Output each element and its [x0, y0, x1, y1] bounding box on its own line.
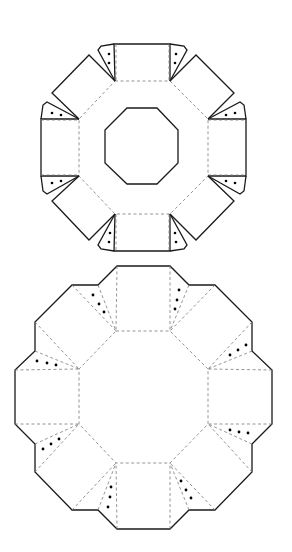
lid-tab-right-top: [208, 102, 246, 119]
lid-tab-left-top: [41, 102, 79, 119]
base-net: [15, 266, 272, 529]
lid-panel-left: [41, 102, 79, 194]
lid-panel-top: [98, 44, 187, 81]
lid-panel-right: [208, 102, 246, 194]
lid-window-octagon: [105, 108, 178, 184]
lid-fold-octagon: [79, 81, 208, 214]
lid-net: [41, 44, 246, 251]
base-fold-lines: [15, 266, 272, 529]
box-template-diagram: [0, 0, 292, 552]
lid-tab-right-bottom: [208, 176, 246, 194]
base-outline: [15, 266, 272, 529]
base-glue-dots: [36, 289, 250, 509]
lid-tab-left-bottom: [41, 176, 79, 194]
lid-tab-bottom-left: [98, 214, 115, 251]
base-fold-octagon: [79, 331, 208, 463]
lid-tab-top-right: [170, 44, 187, 81]
lid-tab-bottom-right: [170, 214, 187, 251]
lid-tab-top-left: [98, 44, 115, 81]
lid-panel-bottom: [98, 214, 187, 251]
